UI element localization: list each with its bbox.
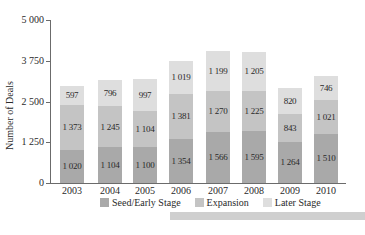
stacked-bar-chart: Number of Deals 01 2502 5003 7505 000 1 … xyxy=(0,0,365,235)
bar-segment-later-stage: 746 xyxy=(314,76,338,100)
bar-2004: 1 1041 245796 xyxy=(98,80,122,183)
y-axis xyxy=(50,20,51,184)
bar-2009: 1 264843820 xyxy=(278,88,302,183)
bar-2005: 1 1001 104997 xyxy=(133,79,157,183)
bar-segment-expansion: 1 104 xyxy=(133,111,157,147)
y-tick-label: 5 000 xyxy=(0,15,44,25)
bar-segment-later-stage: 597 xyxy=(60,86,84,105)
legend-label-expansion: Expansion xyxy=(207,197,249,208)
legend-item-expansion: Expansion xyxy=(195,197,249,208)
bar-segment-later-stage: 997 xyxy=(133,79,157,112)
bar-segment-expansion: 843 xyxy=(278,114,302,141)
bar-segment-seed-early-stage: 1 595 xyxy=(242,131,266,183)
bar-segment-seed-early-stage: 1 510 xyxy=(314,134,338,183)
legend-swatch-expansion xyxy=(195,198,204,207)
legend-swatch-later xyxy=(263,198,272,207)
y-tick-label: 2 500 xyxy=(0,97,44,107)
bar-segment-expansion: 1 245 xyxy=(98,106,122,147)
bar-segment-later-stage: 1 199 xyxy=(206,51,230,90)
x-tick-label: 2007 xyxy=(200,186,236,196)
bar-segment-seed-early-stage: 1 104 xyxy=(98,147,122,183)
bar-segment-seed-early-stage: 1 020 xyxy=(60,150,84,183)
x-tick-label: 2009 xyxy=(272,186,308,196)
bar-2010: 1 5101 021746 xyxy=(314,76,338,183)
bar-segment-seed-early-stage: 1 566 xyxy=(206,132,230,183)
legend-label-later: Later Stage xyxy=(275,197,321,208)
bar-segment-expansion: 1 381 xyxy=(169,94,193,139)
y-tick-label: 1 250 xyxy=(0,137,44,147)
bar-segment-later-stage: 1 205 xyxy=(242,52,266,91)
y-tick-label: 0 xyxy=(0,178,44,188)
x-axis xyxy=(50,183,346,184)
x-tick-label: 2004 xyxy=(92,186,128,196)
y-tick-mark xyxy=(46,183,50,184)
bar-2006: 1 3541 3811 019 xyxy=(169,61,193,183)
y-tick-mark xyxy=(46,102,50,103)
x-tick-label: 2010 xyxy=(308,186,344,196)
bar-segment-expansion: 1 270 xyxy=(206,91,230,132)
x-tick-label: 2006 xyxy=(163,186,199,196)
legend-item-seed: Seed/Early Stage xyxy=(100,197,181,208)
y-tick-mark xyxy=(46,20,50,21)
source-note-strip xyxy=(170,212,365,220)
bar-segment-expansion: 1 021 xyxy=(314,100,338,133)
x-tick-label: 2008 xyxy=(236,186,272,196)
y-tick-mark xyxy=(46,142,50,143)
legend-swatch-seed xyxy=(100,198,109,207)
bar-segment-seed-early-stage: 1 354 xyxy=(169,139,193,183)
x-tick-label: 2005 xyxy=(127,186,163,196)
bar-segment-seed-early-stage: 1 264 xyxy=(278,142,302,183)
bar-segment-later-stage: 796 xyxy=(98,80,122,106)
legend-item-later: Later Stage xyxy=(263,197,321,208)
bar-segment-expansion: 1 373 xyxy=(60,105,84,150)
y-tick-mark xyxy=(46,61,50,62)
bar-segment-later-stage: 820 xyxy=(278,88,302,115)
bar-2008: 1 5951 2251 205 xyxy=(242,52,266,183)
bar-segment-seed-early-stage: 1 100 xyxy=(133,147,157,183)
bar-segment-later-stage: 1 019 xyxy=(169,61,193,94)
bar-2007: 1 5661 2701 199 xyxy=(206,51,230,183)
y-tick-label: 3 750 xyxy=(0,56,44,66)
x-tick-label: 2003 xyxy=(54,186,90,196)
bar-2003: 1 0201 373597 xyxy=(60,86,84,183)
legend: Seed/Early Stage Expansion Later Stage xyxy=(100,197,321,208)
bar-segment-expansion: 1 225 xyxy=(242,91,266,131)
legend-label-seed: Seed/Early Stage xyxy=(112,197,181,208)
